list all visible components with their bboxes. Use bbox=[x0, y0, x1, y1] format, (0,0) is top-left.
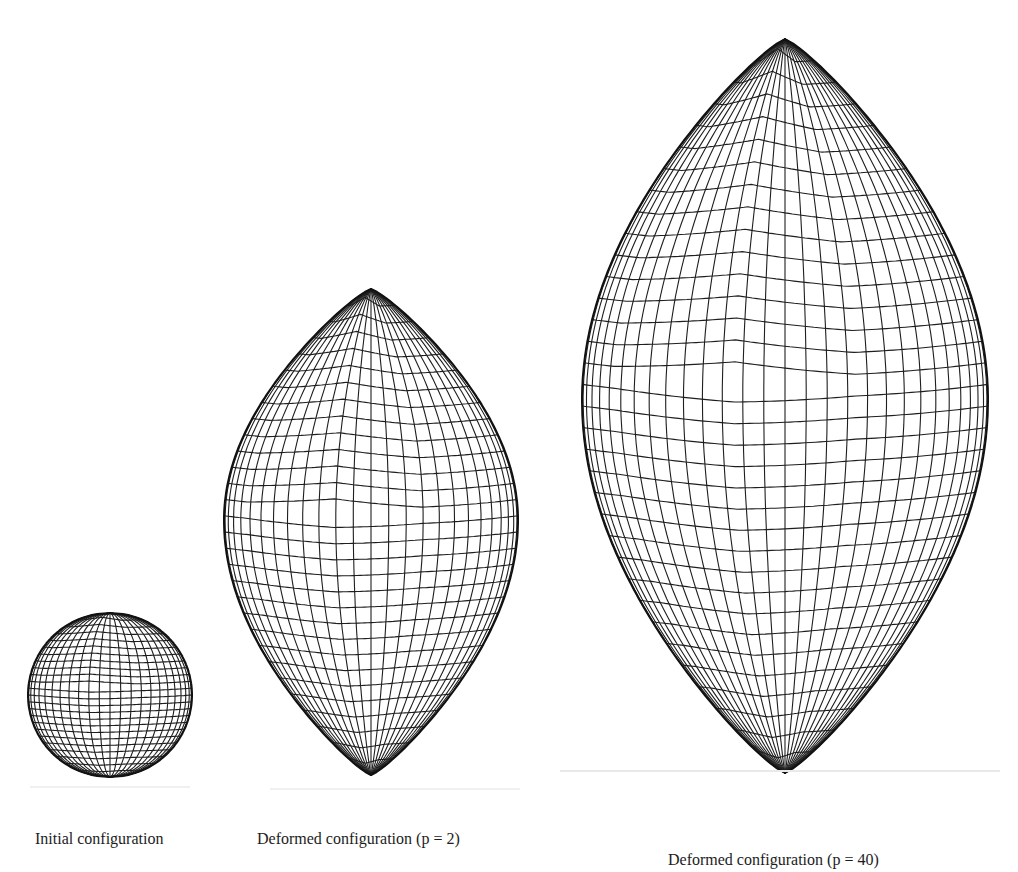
bleed-through-line bbox=[270, 788, 520, 790]
caption-initial-configuration: Initial configuration bbox=[35, 830, 163, 848]
bleed-through-line bbox=[560, 770, 1000, 772]
figure: Initial configuration Deformed configura… bbox=[0, 0, 1018, 872]
caption-deformed-p2: Deformed configuration (p = 2) bbox=[257, 830, 460, 848]
mesh-plot bbox=[0, 0, 1018, 872]
lemon-mesh-p2 bbox=[224, 289, 518, 775]
sphere-mesh-initial bbox=[28, 613, 192, 777]
bleed-through-line bbox=[30, 786, 190, 788]
lemon-mesh-p40 bbox=[582, 39, 988, 773]
caption-deformed-p40: Deformed configuration (p = 40) bbox=[668, 851, 879, 869]
